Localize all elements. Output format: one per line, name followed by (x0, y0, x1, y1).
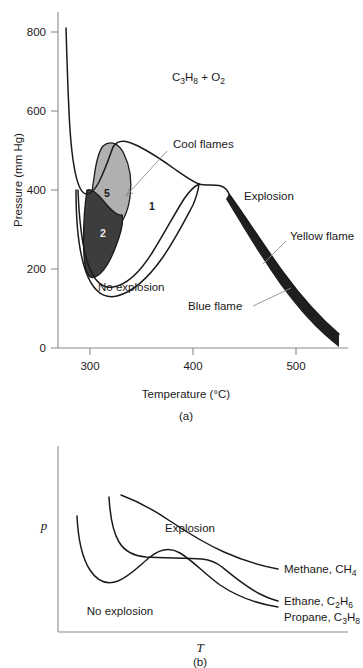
panel-a-caption: (a) (179, 410, 193, 422)
panel-a-xtick-400: 400 (183, 360, 202, 372)
cool-flames-leader (126, 151, 167, 196)
panel-a-x-axis-title: Temperature (°C) (142, 388, 230, 400)
panel-a-y-ticks (51, 32, 58, 348)
panel-a-xtick-300: 300 (80, 360, 99, 372)
panel-a-ytick-200: 200 (27, 263, 46, 275)
panel-a-ytick-600: 600 (27, 105, 46, 117)
panel-b-no-explosion-label: No explosion (87, 605, 153, 617)
region-label-5: 5 (104, 187, 110, 199)
cool-flames-label: Cool flames (173, 138, 234, 150)
curve-label-ethane: Ethane, C2H6 (284, 595, 353, 610)
panel-a-explosion-label: Explosion (244, 190, 294, 202)
curve-ethane (109, 497, 278, 601)
panel-a-ytick-400: 400 (27, 184, 46, 196)
panel-b-x-axis-title: T (196, 640, 204, 655)
panel-a-xtick-500: 500 (286, 360, 305, 372)
panel-a-ytick-800: 800 (27, 26, 46, 38)
panel-b-caption: (b) (193, 656, 207, 668)
panel-a-mixture-label: C3H8 + O2 (172, 71, 225, 86)
panel-a-ytick-0: 0 (40, 342, 46, 354)
panel-a-x-ticks (90, 348, 296, 355)
panel-a-chart: 0 200 400 600 800 300 400 500 Pressure (… (0, 0, 363, 440)
region-label-1: 1 (149, 200, 155, 212)
region-label-2: 2 (100, 227, 106, 239)
panel-b-chart: p T (b) Methane, CH4 Ethane, C2H6 Propan… (0, 440, 363, 668)
panel-a-y-axis-title: Pressure (mm Hg) (12, 133, 24, 227)
panel-b-explosion-label: Explosion (165, 522, 215, 534)
yellow-flame-label: Yellow flame (290, 230, 354, 242)
panel-b-y-axis-title: p (40, 518, 48, 533)
curve-label-propane: Propane, C3H8 (284, 611, 360, 626)
blue-flame-label: Blue flame (188, 300, 242, 312)
panel-a-no-explosion-label: No explosion (98, 281, 164, 293)
figure-container: 0 200 400 600 800 300 400 500 Pressure (… (0, 0, 363, 668)
curve-label-methane: Methane, CH4 (284, 563, 357, 578)
blue-flame-leader (253, 288, 291, 306)
